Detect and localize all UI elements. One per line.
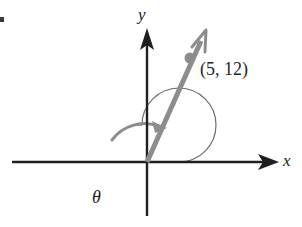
point-marker-dot [185,53,196,64]
theta-angle-label: θ [92,188,101,206]
y-axis-label: y [138,6,146,23]
angle-arc-continuation [112,124,158,140]
diagram-canvas [0,0,302,227]
x-axis-label: x [283,152,291,169]
page-edge-mark-artifact [0,17,4,22]
vector-angle-diagram: y x (5, 12) θ [0,0,302,227]
point-coordinate-label: (5, 12) [200,60,248,78]
x-axis-group [12,154,279,170]
